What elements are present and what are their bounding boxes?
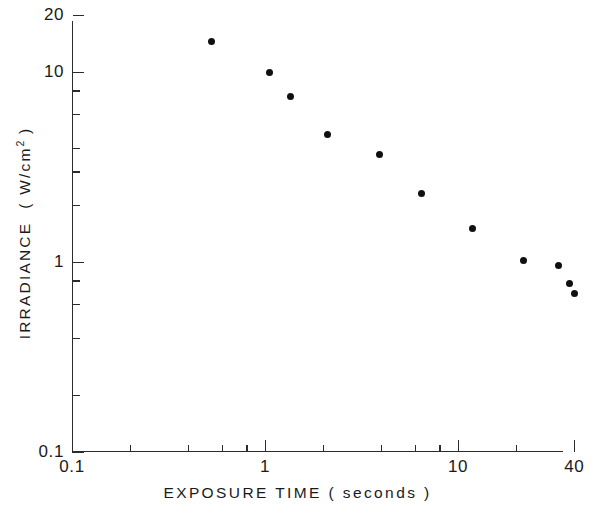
data-point [266, 69, 273, 76]
data-point [208, 38, 215, 45]
y-axis-major-tick [73, 15, 84, 16]
x-axis-tick-label: 40 [544, 457, 595, 477]
y-axis-title-exponent: 2 [14, 141, 26, 147]
x-axis-tick-label: 10 [428, 457, 488, 477]
x-axis-tick-label: 1 [235, 457, 295, 477]
x-axis-major-tick [574, 440, 575, 452]
y-axis-title-units: W/cm [16, 146, 33, 194]
x-axis-tick-label: 0.1 [42, 457, 102, 477]
y-axis-title: IRRADIANCE ( W/cm2 ) [14, 18, 48, 448]
y-axis-title-lead: IRRADIANCE [16, 222, 33, 340]
data-point [555, 262, 562, 269]
data-point [566, 280, 573, 287]
data-point [520, 257, 527, 264]
plot-data-area [72, 22, 562, 452]
data-point [571, 290, 578, 297]
y-axis-title-paren-close: ) [16, 127, 33, 134]
data-point [287, 93, 294, 100]
data-point [324, 131, 331, 138]
data-point [418, 190, 425, 197]
data-point [376, 151, 383, 158]
y-axis-title-paren-open: ( [16, 201, 33, 208]
y-axis-major-tick [73, 452, 84, 453]
x-axis-title: EXPOSURE TIME ( seconds ) [0, 484, 595, 502]
data-point [469, 225, 476, 232]
scatter-chart-figure: 0.111020 0.111040 EXPOSURE TIME ( second… [0, 0, 595, 514]
